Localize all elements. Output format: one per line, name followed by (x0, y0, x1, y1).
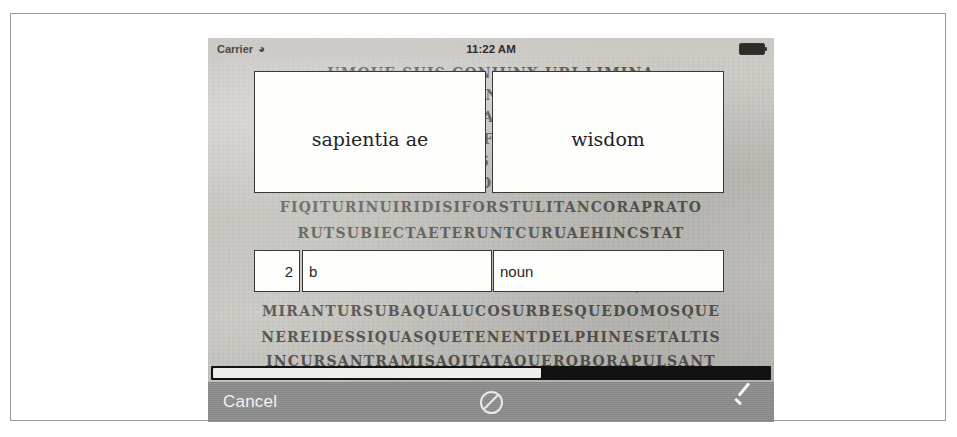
sense-number-value: 2 (255, 263, 299, 280)
battery-icon (739, 43, 765, 55)
manuscript-line: NEREIDESSIQUASQUETENENTDELPHINESETALTIS (208, 327, 774, 345)
figure-frame: Umque suis coniunx ubi limina oo uae fue… (10, 13, 946, 421)
status-bar-clock: 11:22 AM (208, 43, 774, 55)
subsense-letter-field[interactable]: b (302, 250, 492, 292)
cancel-button[interactable]: Cancel (223, 392, 277, 412)
headword-field[interactable]: sapientia ae (254, 71, 486, 193)
manuscript-line: MIRANTURSUBAQUALUCOSURBESQUEDOMOSQUE (208, 301, 774, 319)
checkmark-icon (732, 393, 756, 411)
subsense-letter-value: b (303, 263, 491, 280)
meaning-field[interactable]: wisdom (492, 71, 724, 193)
horizontal-scrollbar[interactable] (211, 366, 771, 380)
figure-page: Umque suis coniunx ubi limina oo uae fue… (0, 0, 957, 437)
meaning-value: wisdom (493, 114, 723, 150)
part-of-speech-value: noun (494, 263, 723, 280)
scrollbar-thumb[interactable] (213, 368, 541, 378)
confirm-button[interactable] (732, 393, 756, 411)
phone-screenshot: Umque suis coniunx ubi limina oo uae fue… (208, 38, 774, 422)
no-entry-button[interactable] (480, 391, 503, 414)
no-entry-button-wrap (208, 391, 774, 414)
part-of-speech-field[interactable]: noun (493, 250, 724, 292)
manuscript-line: RUTSUBIECTAETERUNTCURUAEHINCSTAT (208, 223, 774, 241)
status-bar-right (739, 43, 765, 55)
no-entry-icon (480, 391, 503, 414)
status-bar: Carrier ◕ 11:22 AM (208, 38, 774, 60)
headword-value: sapientia ae (255, 114, 485, 150)
bottom-toolbar: Cancel (208, 382, 774, 422)
manuscript-line: FIQITURINUIRIDISIFORSTULITANCORAPRATO (208, 197, 774, 215)
sense-number-field[interactable]: 2 (254, 250, 300, 292)
